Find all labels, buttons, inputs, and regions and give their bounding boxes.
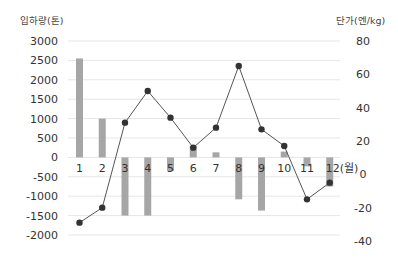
left-tick-label: 500	[37, 132, 58, 145]
left-tick-label: 1000	[30, 113, 58, 126]
data-point-marker	[145, 88, 151, 94]
x-tick-label: 2	[99, 162, 106, 175]
price-line	[80, 66, 330, 223]
right-tick-label: 0	[360, 168, 367, 181]
left-tick-label: -2000	[26, 229, 58, 242]
data-point-marker	[258, 126, 264, 132]
combo-chart: 300025002000150010005000-500-1000-1500-2…	[0, 0, 398, 259]
data-point-marker	[76, 219, 82, 225]
left-tick-label: -1000	[26, 190, 58, 203]
right-tick-label: 40	[356, 102, 370, 115]
left-tick-label: 2000	[30, 74, 58, 87]
right-axis-ticks: 806040200-20-40	[354, 35, 372, 248]
bar	[99, 119, 106, 158]
left-tick-label: 2500	[30, 54, 58, 67]
x-tick-label: 4	[144, 162, 151, 175]
x-tick-label: 6	[190, 162, 197, 175]
x-tick-label: 12(월)	[326, 162, 359, 175]
right-tick-label: -20	[354, 202, 372, 215]
line-series-unit-price	[76, 63, 333, 226]
data-point-marker	[122, 119, 128, 125]
x-tick-label: 9	[258, 162, 265, 175]
x-tick-label: 11	[300, 162, 314, 175]
x-tick-label: 5	[167, 162, 174, 175]
left-tick-label: 0	[51, 151, 58, 164]
right-tick-label: 20	[356, 135, 370, 148]
left-axis-title: 입하량(톤)	[20, 15, 63, 26]
data-point-marker	[236, 63, 242, 69]
right-axis-title: 단가(엔/kg)	[336, 15, 385, 26]
x-tick-label: 3	[122, 162, 129, 175]
x-tick-label: 7	[213, 162, 220, 175]
data-point-marker	[213, 124, 219, 130]
bar	[76, 58, 83, 157]
right-tick-label: -40	[354, 235, 372, 248]
bar	[213, 152, 220, 157]
left-axis-ticks: 300025002000150010005000-500-1000-1500-2…	[26, 35, 58, 242]
left-tick-label: -500	[33, 171, 58, 184]
right-tick-label: 60	[356, 68, 370, 81]
x-axis-labels: 123456789101112(월)	[76, 162, 358, 175]
x-tick-label: 8	[235, 162, 242, 175]
data-point-marker	[327, 179, 333, 185]
x-tick-label: 10	[277, 162, 291, 175]
left-tick-label: 3000	[30, 35, 58, 48]
data-point-marker	[281, 143, 287, 149]
data-point-marker	[304, 196, 310, 202]
x-tick-label: 1	[76, 162, 83, 175]
data-point-marker	[190, 144, 196, 150]
data-point-marker	[99, 204, 105, 210]
left-tick-label: -1500	[26, 210, 58, 223]
left-tick-label: 1500	[30, 93, 58, 106]
right-tick-label: 80	[356, 35, 370, 48]
data-point-marker	[167, 114, 173, 120]
